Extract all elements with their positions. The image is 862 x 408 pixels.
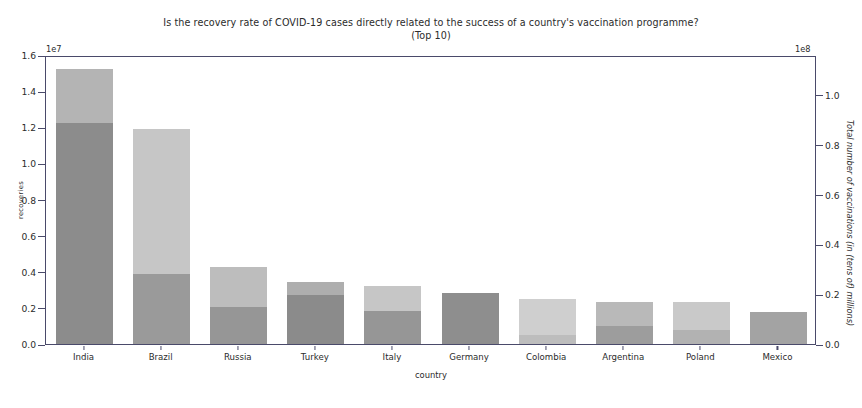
bar-recoveries (750, 312, 807, 345)
bar-group (519, 56, 576, 344)
bar-recoveries (596, 326, 653, 344)
bar-recoveries (519, 335, 576, 344)
bar-group (56, 56, 113, 344)
x-axis-tick-poland: Poland (660, 346, 740, 354)
chart-subtitle: (Top 10) (0, 29, 862, 42)
bar-group (673, 56, 730, 344)
bar-group (210, 56, 267, 344)
x-axis-tick-russia: Russia (198, 346, 278, 354)
bar-group (442, 56, 499, 344)
x-axis-tick-colombia: Colombia (506, 346, 586, 354)
bar-recoveries (210, 307, 267, 344)
chart-figure: Is the recovery rate of COVID-19 cases d… (0, 0, 862, 408)
bar-recoveries (442, 293, 499, 344)
left-axis-offset-label: 1e7 (46, 44, 61, 54)
bar-group (364, 56, 421, 344)
x-axis-tick-mexico: Mexico (737, 346, 817, 354)
chart-title-block: Is the recovery rate of COVID-19 cases d… (0, 16, 862, 42)
x-axis-label: country (0, 370, 862, 380)
chart-title: Is the recovery rate of COVID-19 cases d… (0, 16, 862, 29)
bar-recoveries (287, 295, 344, 344)
x-axis-tick-india: India (44, 346, 124, 354)
x-axis-tick-argentina: Argentina (583, 346, 663, 354)
x-axis-tick-italy: Italy (352, 346, 432, 354)
bar-group (133, 56, 190, 344)
bar-recoveries (133, 274, 190, 344)
left-y-axis-label: recoveries (17, 181, 25, 219)
bars-layer (46, 57, 815, 344)
plot-area (45, 56, 816, 345)
bar-group (287, 56, 344, 344)
x-axis-tick-turkey: Turkey (275, 346, 355, 354)
bar-recoveries (56, 123, 113, 344)
right-y-axis-label: Total number of vaccinations (in (tens o… (845, 120, 855, 280)
bar-group (596, 56, 653, 344)
bar-group (750, 56, 807, 344)
right-axis-offset-label: 1e8 (795, 44, 810, 54)
x-axis-tick-germany: Germany (429, 346, 509, 354)
bar-recoveries (364, 311, 421, 344)
bar-recoveries (673, 330, 730, 344)
x-axis-tick-brazil: Brazil (121, 346, 201, 354)
